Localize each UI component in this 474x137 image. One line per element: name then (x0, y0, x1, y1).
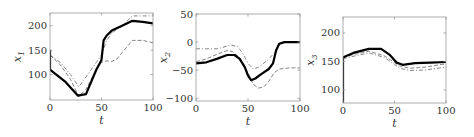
series-group (50, 16, 153, 97)
y-tick-label: 0 (187, 37, 193, 48)
subplot-x2: 050100−100−50050tx2 (157, 9, 310, 129)
y-axis-label: x1 (11, 51, 26, 62)
x-axis-label: t (392, 117, 397, 130)
x-tick-label: 100 (290, 103, 309, 114)
axes-frame (196, 14, 300, 101)
subplot-x3: 050100100150200tx3 (304, 17, 456, 130)
x-tick-label: 50 (242, 103, 255, 114)
y-tick-label: 50 (180, 9, 193, 20)
x-tick-label: 100 (143, 102, 162, 113)
series-group (196, 42, 300, 88)
x-tick-label: 0 (340, 105, 346, 116)
x-axis-label: t (246, 115, 251, 128)
subplot-x1: 050100100150200tx1 (11, 13, 163, 127)
line-solid (196, 42, 300, 80)
x-tick-label: 50 (95, 102, 108, 113)
y-tick-label: 200 (321, 27, 340, 38)
y-tick-label: 150 (28, 45, 47, 56)
y-axis-label: x3 (304, 54, 319, 65)
y-tick-label: −50 (172, 65, 193, 76)
series-group (343, 49, 446, 103)
line-dashed (196, 51, 300, 89)
y-tick-label: −100 (166, 93, 193, 104)
x-tick-label: 0 (47, 102, 53, 113)
y-tick-label: 100 (28, 69, 47, 80)
line-solid (50, 21, 153, 96)
line-dash-dot (196, 42, 300, 69)
figure-canvas: 050100100150200tx1 050100−100−50050tx2 0… (0, 0, 474, 137)
x-tick-label: 0 (193, 103, 199, 114)
x-tick-label: 50 (388, 105, 401, 116)
x-tick-label: 100 (436, 105, 455, 116)
y-tick-label: 200 (28, 20, 47, 31)
y-axis-label: x2 (157, 52, 172, 63)
line-solid (343, 49, 446, 103)
y-tick-label: 100 (321, 84, 340, 95)
x-axis-label: t (99, 114, 104, 127)
y-tick-label: 150 (321, 56, 340, 67)
